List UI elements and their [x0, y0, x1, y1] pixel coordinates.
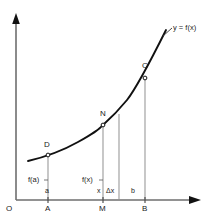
- point-label-C: C: [142, 62, 148, 70]
- point-marker-N: [101, 123, 105, 127]
- axis-label-A: A: [45, 205, 50, 213]
- axis-label-M: M: [99, 205, 106, 213]
- point-marker-C: [143, 76, 147, 80]
- point-marker-D: [46, 153, 50, 157]
- function-label-f-of-x: f(x): [82, 176, 93, 184]
- value-label-a: a: [45, 187, 49, 194]
- integral-figure: y = f(x) D N C f(a) f(x) a x Δx b O A M …: [0, 0, 211, 220]
- axis-label-B: B: [142, 205, 147, 213]
- origin-label: O: [6, 205, 12, 213]
- value-label-x: x: [97, 187, 101, 194]
- value-label-delta-x: Δx: [106, 187, 114, 194]
- point-label-D: D: [44, 141, 50, 149]
- curve-equation-label: y = f(x): [173, 24, 196, 32]
- x-axis-arrowhead: [189, 196, 201, 204]
- y-axis-arrowhead: [12, 13, 20, 24]
- value-label-b: b: [131, 187, 135, 194]
- point-label-N: N: [100, 110, 106, 118]
- function-label-f-of-a: f(a): [28, 176, 39, 184]
